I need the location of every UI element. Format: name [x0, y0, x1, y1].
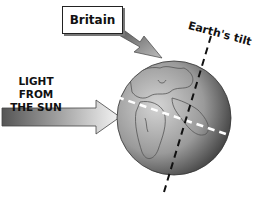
sunlight-label-line2: THE SUN: [0, 101, 72, 114]
earth-tilt-diagram: Britain LIGHT FROM THE SUN Earth's tilt: [0, 0, 262, 201]
britain-label: Britain: [70, 13, 116, 27]
earth-globe: [117, 61, 231, 175]
sunlight-label: LIGHT FROM THE SUN: [0, 75, 72, 114]
britain-label-box: Britain: [62, 6, 123, 34]
britain-pointer-arrow: [117, 28, 162, 58]
sunlight-label-line1: LIGHT FROM: [0, 75, 72, 101]
